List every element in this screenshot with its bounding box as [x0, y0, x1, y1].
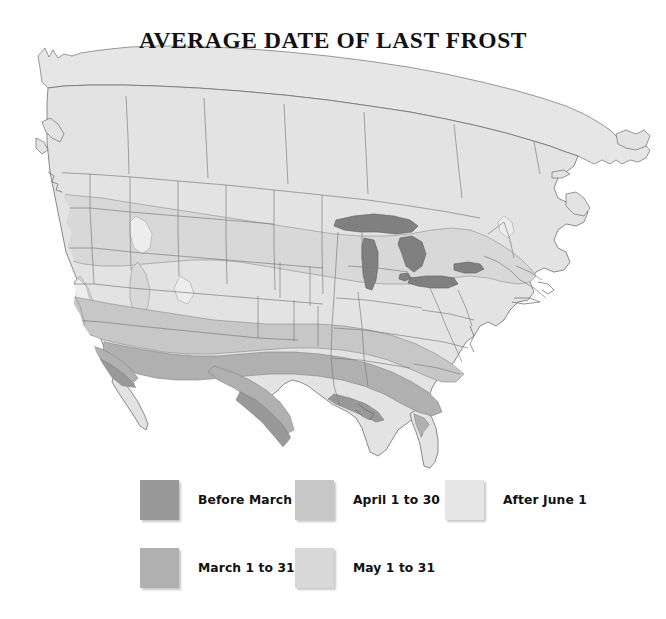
map-canvas	[18, 26, 666, 476]
legend-swatch-after-june-1	[445, 480, 484, 520]
legend-item-april-1-to-30[interactable]: April 1 to 30	[295, 478, 440, 522]
legend-label-may-1-to-31: May 1 to 31	[353, 561, 435, 575]
legend-swatch-before-march-1	[140, 480, 179, 520]
legend-swatch-march-1-to-31	[140, 548, 179, 588]
legend-row-1: Before March 1 April 1 to 30 After June …	[140, 478, 640, 522]
zone-patch-socal-coast	[74, 340, 96, 366]
frost-zone-map-svg	[18, 26, 666, 476]
legend-label-after-june-1: After June 1	[503, 493, 587, 507]
frost-date-legend: Before March 1 April 1 to 30 After June …	[140, 478, 640, 598]
landmass-pacific-islet	[36, 138, 48, 154]
landmass-florida	[410, 408, 438, 468]
legend-label-before-march-1: Before March 1	[198, 493, 305, 507]
legend-row-2: March 1 to 31 May 1 to 31	[140, 546, 640, 590]
legend-label-march-1-to-31: March 1 to 31	[198, 561, 295, 575]
legend-label-april-1-to-30: April 1 to 30	[353, 493, 440, 507]
lake-ontario	[454, 262, 484, 273]
legend-item-march-1-to-31[interactable]: March 1 to 31	[140, 546, 295, 590]
legend-swatch-may-1-to-31	[295, 548, 334, 588]
legend-item-after-june-1[interactable]: After June 1	[445, 478, 587, 522]
coast-cape-cod	[538, 282, 554, 294]
frost-map-page: AVERAGE DATE OF LAST FROST	[0, 0, 666, 619]
legend-swatch-april-1-to-30	[295, 480, 334, 520]
legend-item-may-1-to-31[interactable]: May 1 to 31	[295, 546, 435, 590]
legend-item-before-march-1[interactable]: Before March 1	[140, 478, 305, 522]
page-title: AVERAGE DATE OF LAST FROST	[0, 27, 666, 54]
